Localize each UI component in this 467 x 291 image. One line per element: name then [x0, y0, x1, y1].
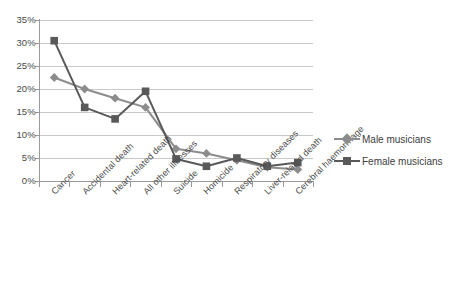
data-point-marker: [50, 73, 59, 82]
y-tick-label: 10%: [0, 130, 36, 140]
y-tick-label: 0%: [0, 176, 36, 186]
data-point-marker: [233, 154, 241, 162]
legend-swatch-male-diamond-icon: [334, 133, 360, 145]
data-point-marker: [202, 149, 211, 158]
legend-item-male[interactable]: Male musicians: [334, 128, 464, 150]
data-point-marker: [50, 37, 58, 45]
data-point-marker: [80, 85, 89, 94]
data-point-marker: [203, 162, 211, 170]
y-tick-label: 25%: [0, 61, 36, 71]
data-point-marker: [111, 115, 119, 123]
legend-label-female: Female musicians: [360, 156, 443, 167]
y-tick-label: 5%: [0, 153, 36, 163]
data-point-marker: [111, 94, 120, 103]
data-point-marker: [142, 88, 150, 96]
y-tick-label: 30%: [0, 38, 36, 48]
legend-swatch-female-square-icon: [334, 155, 360, 167]
legend-item-female[interactable]: Female musicians: [334, 150, 464, 172]
x-tick-mark: [39, 182, 40, 187]
legend-label-male: Male musicians: [360, 134, 431, 145]
y-tick-label: 20%: [0, 84, 36, 94]
y-tick-label: 15%: [0, 107, 36, 117]
data-point-marker: [81, 104, 89, 112]
line-chart: 0%5%10%15%20%25%30%35% CancerAccidental …: [0, 0, 467, 291]
chart-legend: Male musicians Female musicians: [334, 128, 464, 172]
y-tick-label: 35%: [0, 15, 36, 25]
